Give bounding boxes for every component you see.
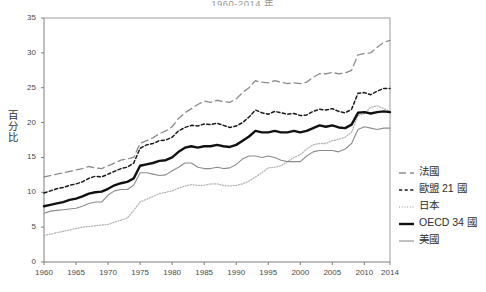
x-tick-label: 1975 — [123, 268, 157, 277]
legend-swatch-icon — [398, 199, 415, 211]
y-tick-label: 25 — [14, 83, 36, 92]
y-tick-label: 15 — [14, 152, 36, 161]
y-tick-label: 30 — [14, 48, 36, 57]
x-tick-label: 2005 — [315, 268, 349, 277]
chart-legend: 法國歐盟 21 國日本OECD 34 國美國 — [398, 162, 486, 247]
x-tick-label: 2000 — [283, 268, 317, 277]
legend-label: OECD 34 國 — [419, 214, 477, 229]
legend-label: 歐盟 21 國 — [419, 180, 467, 195]
y-tick-label: 20 — [14, 118, 36, 127]
legend-label: 法國 — [419, 163, 439, 178]
legend-swatch-icon — [398, 182, 415, 194]
legend-item[interactable]: 日本 — [398, 196, 486, 213]
series-line — [44, 40, 390, 177]
legend-item[interactable]: OECD 34 國 — [398, 213, 486, 230]
legend-swatch-icon — [398, 216, 415, 228]
x-tick-label: 1980 — [155, 268, 189, 277]
x-tick-label: 1965 — [59, 268, 93, 277]
legend-swatch-icon — [398, 165, 415, 177]
x-tick-label: 1995 — [251, 268, 285, 277]
legend-label: 美國 — [419, 231, 439, 246]
y-tick-label: 5 — [14, 222, 36, 231]
x-tick-label: 2014 — [373, 268, 407, 277]
x-tick-label: 1985 — [187, 268, 221, 277]
x-tick-label: 1960 — [27, 268, 61, 277]
y-tick-label: 35 — [14, 13, 36, 22]
series-line — [44, 106, 390, 236]
legend-swatch-icon — [398, 233, 415, 245]
series-line — [44, 111, 390, 206]
legend-item[interactable]: 法國 — [398, 162, 486, 179]
legend-item[interactable]: 美國 — [398, 230, 486, 247]
legend-item[interactable]: 歐盟 21 國 — [398, 179, 486, 196]
legend-label: 日本 — [419, 197, 439, 212]
x-tick-label: 1990 — [219, 268, 253, 277]
x-tick-label: 1970 — [91, 268, 125, 277]
series-line — [44, 88, 390, 193]
line-chart-plot — [0, 0, 486, 292]
y-tick-label: 0 — [14, 257, 36, 266]
chart-figure: 1960-2014 年 百分比 051015202530351960196519… — [0, 0, 486, 292]
y-tick-label: 10 — [14, 187, 36, 196]
